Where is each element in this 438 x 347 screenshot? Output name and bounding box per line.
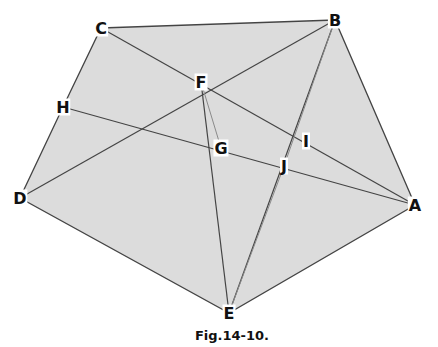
- point-label-a: A: [408, 197, 422, 214]
- point-label-c: C: [94, 20, 108, 37]
- pentagon-shape: [20, 20, 415, 313]
- point-label-h: H: [55, 99, 70, 116]
- point-label-d: D: [12, 190, 27, 207]
- point-label-j: J: [280, 158, 288, 175]
- point-label-f: F: [195, 74, 208, 91]
- geometry-figure: [0, 0, 438, 347]
- point-label-e: E: [223, 305, 236, 322]
- point-label-b: B: [328, 12, 342, 29]
- point-label-i: I: [302, 133, 310, 150]
- point-label-g: G: [213, 140, 228, 157]
- figure-caption: Fig.14-10.: [195, 328, 269, 343]
